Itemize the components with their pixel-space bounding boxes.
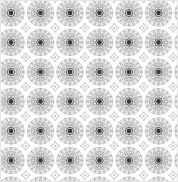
rosette-instance [57, 29, 83, 55]
rosette-instance [145, 147, 171, 173]
star-accent-instance [139, 0, 148, 3]
star-accent-instance [80, 53, 89, 62]
rosette-instance [145, 177, 171, 182]
star-accent-instance [21, 171, 30, 180]
rosette-instance [57, 0, 83, 26]
star-accent-instance [110, 53, 119, 62]
star-accent-instance [0, 53, 1, 62]
star-accent-instance [0, 82, 1, 91]
star-accent-instance [139, 23, 148, 32]
rosette-instance [0, 0, 24, 26]
rosette-instance [86, 29, 112, 55]
rosette-instance [27, 88, 53, 114]
star-accent-instance [80, 23, 89, 32]
star-accent-instance [80, 171, 89, 180]
star-accent-instance [169, 53, 178, 62]
rosette-instance [145, 59, 171, 85]
rosette-instance [116, 147, 142, 173]
rosette-instance [175, 59, 178, 85]
rosette-pattern-canvas [0, 0, 178, 182]
rosette-instance [27, 0, 53, 26]
rosette-grid [0, 0, 178, 182]
rosette-instance [116, 177, 142, 182]
star-accent-instance [0, 0, 1, 3]
star-accent-instance [51, 23, 60, 32]
rosette-instance [57, 118, 83, 144]
rosette-instance [116, 29, 142, 55]
rosette-instance [27, 59, 53, 85]
rosette-instance [57, 59, 83, 85]
star-accent-instance [169, 0, 178, 3]
rosette-instance [175, 29, 178, 55]
rosette-instance [175, 88, 178, 114]
star-accent-instance [21, 23, 30, 32]
star-accent-instance [110, 23, 119, 32]
rosette-instance [175, 0, 178, 26]
star-accent-instance [80, 82, 89, 91]
star-accent-instance [169, 82, 178, 91]
star-accent-instance [169, 171, 178, 180]
rosette-instance [116, 59, 142, 85]
rosette-instance [27, 118, 53, 144]
star-accent-instance [139, 171, 148, 180]
rosette-instance [86, 88, 112, 114]
star-accent-instance [80, 141, 89, 150]
star-accent-instance [139, 141, 148, 150]
rosette-instance [0, 118, 24, 144]
rosette-instance [0, 59, 24, 85]
rosette-instance [175, 147, 178, 173]
star-accent-instance [51, 0, 60, 3]
rosette-instance [57, 88, 83, 114]
star-accent-instance [0, 141, 1, 150]
star-accent-instance [0, 112, 1, 121]
rosette-instance [116, 88, 142, 114]
star-accent-instance [139, 112, 148, 121]
rosette-instance [175, 118, 178, 144]
rosette-instance [116, 0, 142, 26]
rosette-instance [0, 147, 24, 173]
star-accent-instance [21, 112, 30, 121]
star-accent-instance [0, 23, 1, 32]
rosette-instance [86, 147, 112, 173]
rosette-instance [175, 177, 178, 182]
star-accent-instance [21, 141, 30, 150]
star-accent-instance [21, 0, 30, 3]
star-accent-instance [139, 82, 148, 91]
star-accent-instance [51, 82, 60, 91]
rosette-instance [145, 29, 171, 55]
star-accent-instance [21, 82, 30, 91]
star-accent-instance [110, 82, 119, 91]
rosette-instance [57, 177, 83, 182]
rosette-instance [145, 118, 171, 144]
star-accent-instance [110, 0, 119, 3]
star-accent-instance [169, 112, 178, 121]
star-accent-instance [110, 171, 119, 180]
star-accent-instance [110, 112, 119, 121]
pattern-tile: Seamless Floral Rosette Pattern Monochro… [0, 0, 178, 182]
rosette-instance [145, 0, 171, 26]
rosette-instance [86, 177, 112, 182]
rosette-instance [0, 88, 24, 114]
rosette-instance [57, 147, 83, 173]
star-accent-instance [169, 23, 178, 32]
rosette-instance [27, 177, 53, 182]
rosette-instance [86, 59, 112, 85]
rosette-instance [0, 29, 24, 55]
star-accent-instance [51, 171, 60, 180]
star-accent-instance [139, 53, 148, 62]
rosette-instance [27, 147, 53, 173]
rosette-instance [0, 177, 24, 182]
star-accent-instance [51, 141, 60, 150]
star-accent-instance [0, 171, 1, 180]
star-accent-instance [51, 53, 60, 62]
rosette-instance [116, 118, 142, 144]
rosette-instance [86, 118, 112, 144]
star-accent-instance [80, 112, 89, 121]
rosette-instance [86, 0, 112, 26]
rosette-instance [145, 88, 171, 114]
star-accent-instance [169, 141, 178, 150]
rosette-instance [27, 29, 53, 55]
star-accent-instance [110, 141, 119, 150]
star-accent-instance [80, 0, 89, 3]
star-accent-instance [51, 112, 60, 121]
